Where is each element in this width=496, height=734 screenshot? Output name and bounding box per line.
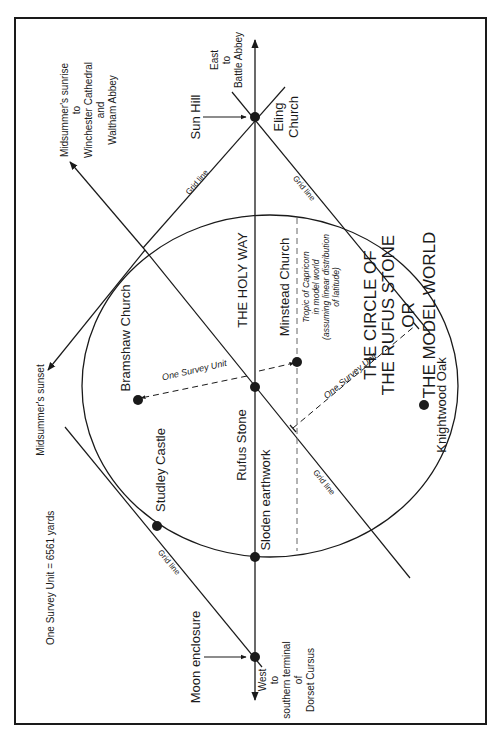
grid-line-label-3: Grid line bbox=[156, 548, 182, 577]
eling-church-dot bbox=[250, 112, 260, 122]
svg-text:Battle Abbey: Battle Abbey bbox=[233, 32, 244, 88]
sun-hill-label: Sun Hill bbox=[188, 94, 203, 139]
svg-text:Midsummer's sunrise: Midsummer's sunrise bbox=[59, 62, 70, 157]
svg-text:and: and bbox=[95, 102, 106, 119]
svg-text:Dorset Cursus: Dorset Cursus bbox=[305, 648, 316, 712]
studley-castle-dot bbox=[152, 521, 162, 531]
rufus-stone-label: Rufus Stone bbox=[234, 409, 249, 481]
svg-text:southern terminal: southern terminal bbox=[281, 641, 292, 718]
midsummer-sunset-label: Midsummer's sunset bbox=[35, 364, 46, 456]
survey-unit-label-upper: One Survey Unit bbox=[161, 358, 228, 383]
moon-enclosure-dot bbox=[250, 652, 260, 662]
svg-text:West: West bbox=[257, 668, 268, 691]
bramshaw-church-dot bbox=[133, 395, 143, 405]
svg-text:of latitude): of latitude) bbox=[331, 267, 341, 307]
midsummer-sunrise-line bbox=[70, 162, 145, 250]
svg-text:of: of bbox=[293, 676, 304, 685]
svg-text:East: East bbox=[209, 50, 220, 70]
sloden-earthwork-dot bbox=[250, 552, 260, 562]
svg-text:Church: Church bbox=[286, 96, 301, 138]
svg-text:Eling: Eling bbox=[271, 103, 286, 132]
svg-text:Winchester Cathedral: Winchester Cathedral bbox=[83, 62, 94, 158]
studley-castle-label: Studley Castle bbox=[153, 428, 168, 512]
rufus-stone-dot bbox=[250, 382, 260, 392]
bramshaw-church-label: Bramshaw Church bbox=[118, 285, 133, 392]
tropic-label: Tropic of Capricorn in model world (assu… bbox=[301, 234, 341, 340]
midsummer-sunrise-label: Midsummer's sunrise to Winchester Cathed… bbox=[59, 62, 118, 158]
svg-text:THE RUFUS STONE: THE RUFUS STONE bbox=[379, 235, 398, 395]
survey-unit-line-bramshaw bbox=[141, 376, 247, 398]
moon-enclosure-label: Moon enclosure bbox=[188, 611, 203, 704]
svg-text:Tropic of Capricorn: Tropic of Capricorn bbox=[301, 251, 311, 323]
svg-text:OR: OR bbox=[399, 302, 418, 328]
survey-unit-line-minstead bbox=[259, 363, 294, 371]
svg-text:to: to bbox=[221, 55, 232, 64]
diagram-title: THE CIRCLE OF THE RUFUS STONE OR THE MOD… bbox=[361, 232, 439, 399]
svg-text:to: to bbox=[269, 675, 280, 684]
west-label: West to southern terminal of Dorset Curs… bbox=[257, 641, 316, 718]
svg-text:in model world: in model world bbox=[311, 259, 321, 314]
east-label: East to Battle Abbey bbox=[209, 32, 244, 88]
minstead-church-dot bbox=[292, 357, 302, 367]
scale-note: One Survey Unit = 6561 yards bbox=[45, 511, 56, 645]
svg-text:(assuming linear distribution: (assuming linear distribution bbox=[321, 234, 331, 340]
rufus-stone-diagram: THE CIRCLE OF THE RUFUS STONE OR THE MOD… bbox=[0, 0, 496, 734]
svg-text:Waltham Abbey: Waltham Abbey bbox=[107, 75, 118, 145]
holy-way-label: THE HOLY WAY bbox=[235, 232, 250, 328]
svg-text:to: to bbox=[71, 105, 82, 114]
minstead-church-label: Minstead Church bbox=[277, 238, 292, 336]
sloden-earthwork-label: Sloden earthwork bbox=[258, 449, 273, 551]
knightwood-oak-dot bbox=[419, 400, 429, 410]
grid-line-label-1: Grid line bbox=[184, 168, 211, 197]
eling-church-label: Eling Church bbox=[271, 96, 301, 138]
grid-line-eling-sw bbox=[143, 87, 285, 248]
grid-line-label-2: Grid line bbox=[291, 174, 317, 203]
knightwood-oak-label: Knightwood Oak bbox=[434, 357, 449, 453]
